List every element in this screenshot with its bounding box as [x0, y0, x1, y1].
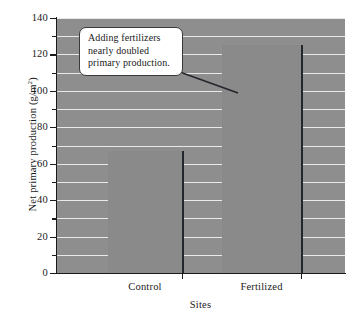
- x-axis-title-text: Sites: [190, 299, 211, 310]
- x-tick: [182, 274, 183, 279]
- y-axis-title-close: ): [27, 77, 38, 81]
- x-axis-line: [56, 273, 346, 274]
- y-tick-minor: [52, 73, 56, 74]
- y-axis-line: [56, 17, 57, 274]
- y-tick-major: [50, 200, 56, 201]
- y-axis-title: Net primary production (g/m2): [26, 14, 39, 274]
- y-tick-minor: [52, 36, 56, 37]
- bar-control: [108, 151, 184, 273]
- bar-fertilized: [222, 45, 303, 273]
- y-tick-major: [50, 273, 56, 274]
- annotation-callout: Adding fertilizers nearly doubled primar…: [79, 27, 183, 76]
- x-axis-title: Sites: [0, 299, 361, 310]
- y-tick-major: [50, 91, 56, 92]
- bar-chart-figure: 020406080100120140 ControlFertilized Net…: [0, 0, 361, 323]
- y-axis-title-text: Net primary production (g/m: [27, 84, 38, 211]
- callout-line-2: nearly doubled: [88, 45, 175, 58]
- x-tick: [301, 274, 302, 279]
- y-tick-minor: [52, 146, 56, 147]
- callout-line-1: Adding fertilizers: [88, 32, 175, 45]
- y-tick-minor: [52, 255, 56, 256]
- y-axis-title-superscript: 2: [26, 81, 34, 85]
- y-tick-major: [50, 127, 56, 128]
- y-tick-major: [50, 18, 56, 19]
- x-tick-label-control: Control: [105, 281, 185, 293]
- y-tick-major: [50, 237, 56, 238]
- y-tick-minor: [52, 182, 56, 183]
- y-tick-major: [50, 164, 56, 165]
- gridline: [57, 18, 345, 19]
- y-tick-major: [50, 54, 56, 55]
- y-tick-minor: [52, 218, 56, 219]
- x-tick-label-fertilized: Fertilized: [222, 281, 302, 293]
- callout-line-3: primary production.: [88, 57, 175, 70]
- y-tick-minor: [52, 109, 56, 110]
